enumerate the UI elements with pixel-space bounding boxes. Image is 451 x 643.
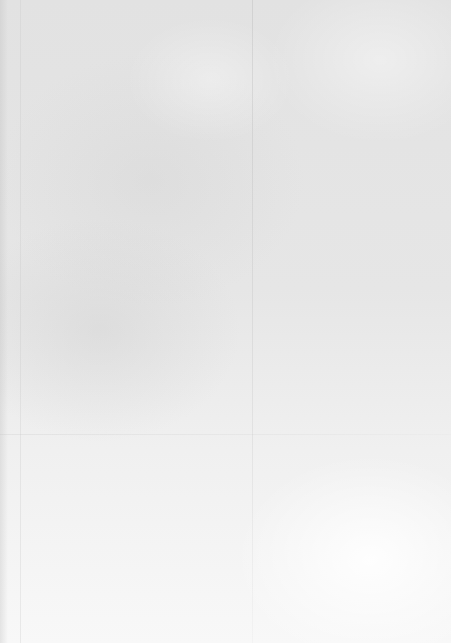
page-edge-shadow [0,0,8,643]
horizontal-fold-crease [0,434,451,435]
margin-line [20,0,21,643]
blank-paper-page [0,0,451,643]
vertical-fold-crease [252,0,253,643]
